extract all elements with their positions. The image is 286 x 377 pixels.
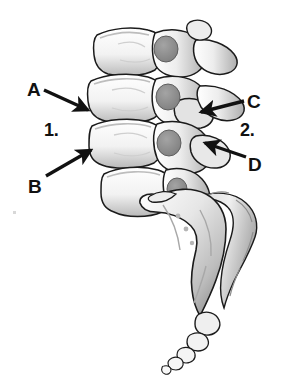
scan-speck — [13, 211, 16, 214]
label-b: B — [28, 177, 42, 196]
label-one: 1. — [44, 121, 59, 139]
arrow-b-line — [46, 150, 91, 176]
label-c: C — [247, 92, 261, 111]
label-d: D — [248, 155, 262, 174]
sacral-foramen-3 — [190, 241, 194, 245]
coccyx-group — [162, 312, 220, 374]
intervertebral-foramen-L2 — [156, 84, 180, 110]
sacrum-group — [140, 189, 257, 316]
coccyx-segment-1 — [195, 312, 220, 335]
label-a: A — [27, 80, 41, 99]
vertebra-group-L3 — [89, 119, 230, 174]
sacral-foramen-1 — [176, 214, 181, 219]
sacral-foramen-2 — [184, 227, 189, 232]
intervertebral-foramen-L3 — [157, 130, 181, 156]
anatomy-figure: A B C D 1. 2. — [0, 0, 286, 377]
vertebra-group-L1 — [93, 20, 237, 77]
arrow-a-line — [44, 90, 88, 110]
intervertebral-foramen-L1 — [154, 36, 178, 62]
coccyx-tip — [162, 366, 171, 375]
spine-illustration — [0, 0, 286, 377]
label-two: 2. — [240, 121, 255, 139]
sacrum — [140, 189, 226, 316]
transverse-process-L1 — [187, 20, 212, 40]
